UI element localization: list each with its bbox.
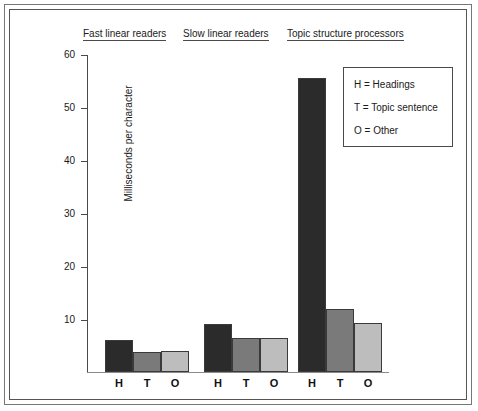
bar-slow-o [260, 338, 288, 372]
x-tick-label-t: T [133, 377, 161, 389]
y-tick-mark [81, 55, 88, 56]
y-tick-40: 40 [79, 161, 88, 162]
legend-entry-other: O = Other [354, 125, 398, 136]
legend-box: H = Headings T = Topic sentence O = Othe… [343, 67, 453, 147]
x-tick-label-o: O [260, 377, 288, 389]
y-tick-60: 60 [79, 55, 88, 56]
y-tick-label: 30 [64, 207, 75, 220]
group-heading-slow-linear-readers: Slow linear readers [183, 28, 269, 41]
x-tick-label-t: T [232, 377, 260, 389]
figure-outer-border: Fast linear readers Slow linear readers … [4, 4, 472, 405]
bar-fast-t [133, 352, 161, 372]
x-tick-label-h: H [204, 377, 232, 389]
group-headings: Fast linear readers Slow linear readers … [80, 28, 478, 44]
x-tick-labels-group-2: H T O [298, 377, 383, 391]
bar-fast-o [161, 351, 189, 372]
y-tick-mark [81, 267, 88, 268]
y-tick-20: 20 [79, 267, 88, 268]
bar-topic-t [326, 309, 354, 372]
x-tick-label-h: H [105, 377, 133, 389]
x-tick-label-o: O [161, 377, 189, 389]
y-tick-label: 50 [64, 101, 75, 114]
bar-slow-t [232, 338, 260, 372]
group-heading-fast-linear-readers: Fast linear readers [83, 28, 166, 41]
x-tick-label-t: T [326, 377, 354, 389]
bar-group-fast-linear-readers: H T O [105, 54, 190, 372]
bar-fast-h [105, 340, 133, 372]
x-axis-line [87, 372, 389, 373]
y-tick-mark [81, 108, 88, 109]
y-tick-mark [81, 161, 88, 162]
y-tick-mark [81, 214, 88, 215]
y-tick-mark [81, 320, 88, 321]
y-tick-label: 20 [64, 260, 75, 273]
y-tick-50: 50 [79, 108, 88, 109]
bar-topic-o [354, 323, 382, 372]
y-tick-label: 40 [64, 154, 75, 167]
y-tick-label: 10 [64, 313, 75, 326]
y-tick-label: 60 [64, 48, 75, 61]
x-tick-label-o: O [354, 377, 382, 389]
bar-slow-h [204, 324, 232, 372]
x-tick-label-h: H [298, 377, 326, 389]
legend-entry-headings: H = Headings [354, 79, 415, 90]
figure-inner-border: Fast linear readers Slow linear readers … [9, 9, 467, 400]
group-heading-topic-structure-processors: Topic structure processors [287, 28, 404, 41]
y-tick-30: 30 [79, 214, 88, 215]
y-tick-10: 10 [79, 320, 88, 321]
x-tick-labels-group-1: H T O [204, 377, 289, 391]
legend-entry-topic-sentence: T = Topic sentence [354, 102, 438, 113]
x-tick-labels-group-0: H T O [105, 377, 190, 391]
bar-group-slow-linear-readers: H T O [204, 54, 289, 372]
bar-topic-h [298, 78, 326, 372]
